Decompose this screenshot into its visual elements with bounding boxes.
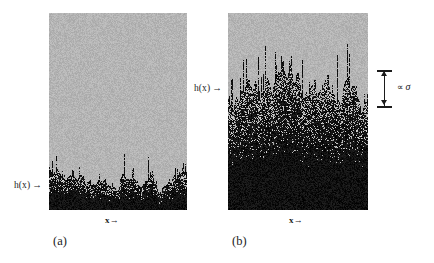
panel-b-x-axis-label: x→ bbox=[289, 216, 303, 225]
arrow-head-up bbox=[381, 71, 387, 76]
panel-a-caption: (a) bbox=[53, 235, 67, 248]
panel-a-image bbox=[49, 13, 187, 210]
panel-a-canvas bbox=[49, 13, 187, 210]
deposition-figure: h(x) → x→ (a) h(x) → x→ (b) ∝ σ bbox=[0, 0, 434, 263]
panel-a-x-axis-label: x→ bbox=[105, 216, 119, 225]
panel-b-canvas bbox=[228, 13, 368, 210]
sigma-symbol: σ bbox=[406, 81, 411, 92]
panel-a-interface-label: h(x) → bbox=[14, 181, 42, 191]
arrow-head-down bbox=[381, 100, 387, 105]
interface-width-arrow-icon bbox=[376, 69, 393, 109]
panel-b-caption: (b) bbox=[232, 235, 247, 248]
arrow-cap-bottom bbox=[377, 106, 392, 108]
panel-b-image bbox=[228, 13, 368, 210]
proportional-symbol: ∝ bbox=[397, 82, 403, 92]
sigma-annotation-label: ∝ σ bbox=[397, 82, 410, 92]
panel-b-interface-label: h(x) → bbox=[194, 84, 222, 94]
